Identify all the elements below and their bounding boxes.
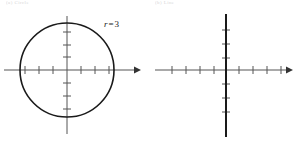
label-r-value: 3 bbox=[115, 19, 120, 29]
label-r-equals-3: r=3 bbox=[104, 20, 119, 29]
polar-graph-figure-pair: (a) Circle bbox=[0, 0, 298, 148]
plot-area-line bbox=[149, 0, 298, 148]
x-axis-left bbox=[4, 66, 141, 74]
x-axis-arrow-icon bbox=[134, 67, 141, 74]
plot-area-circle bbox=[0, 0, 149, 148]
panel-line: (b) Line bbox=[149, 0, 298, 148]
x-axis-arrow-icon bbox=[286, 67, 293, 74]
panel-circle: (a) Circle bbox=[0, 0, 149, 148]
x-axis-right bbox=[155, 66, 293, 74]
label-r-variable: r bbox=[104, 19, 108, 29]
label-r-equals: = bbox=[108, 19, 115, 29]
